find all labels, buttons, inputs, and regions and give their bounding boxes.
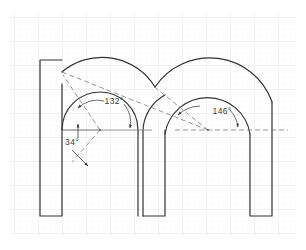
angle-34-label: 34° bbox=[65, 137, 79, 147]
technical-drawing: 34° 132° 146° bbox=[0, 0, 306, 250]
angle-132-label: 132° bbox=[105, 96, 124, 106]
center-mark-arch-two bbox=[207, 129, 209, 131]
graph-paper-grid bbox=[0, 0, 306, 250]
drawing-canvas: 34° 132° 146° bbox=[0, 0, 306, 250]
grid-major-lines bbox=[10, 14, 296, 236]
angle-146-label: 146° bbox=[213, 106, 232, 116]
